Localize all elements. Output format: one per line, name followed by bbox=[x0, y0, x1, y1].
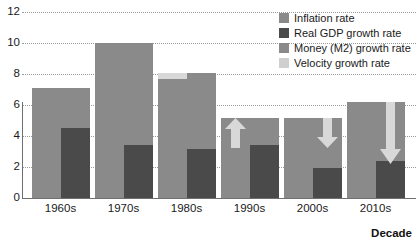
segment-gdp-2010s bbox=[376, 161, 405, 198]
segment-gdp-1970s bbox=[124, 145, 153, 198]
y-tick-label-4: 4 bbox=[0, 130, 20, 142]
segment-gdp-2000s bbox=[313, 168, 342, 198]
legend-item-velocity-growth-rate[interactable]: Velocity growth rate bbox=[279, 56, 411, 70]
bar-inflation-1970s[interactable] bbox=[95, 43, 124, 198]
y-tick-label-2: 2 bbox=[0, 161, 20, 173]
segment-gdp-1980s bbox=[187, 149, 216, 198]
bar-chart: 12 10 8 6 4 2 0 bbox=[0, 0, 418, 247]
y-tick-label-0: 0 bbox=[0, 192, 20, 204]
bar-gdp-1960s[interactable] bbox=[61, 88, 90, 198]
bar-gdp-2000s[interactable] bbox=[313, 118, 342, 198]
legend-swatch-real-gdp-growth-rate bbox=[279, 28, 289, 38]
y-tick-label-8: 8 bbox=[0, 68, 20, 80]
chart-legend: Inflation rate Real GDP growth rate Mone… bbox=[279, 11, 411, 71]
bar-group-1980s bbox=[158, 6, 215, 198]
legend-label-inflation-rate: Inflation rate bbox=[294, 13, 355, 24]
bar-group-1970s bbox=[95, 6, 152, 198]
bar-gdp-1990s[interactable] bbox=[250, 118, 279, 198]
y-tick-label-10: 10 bbox=[0, 37, 20, 49]
bar-money-1990s[interactable] bbox=[221, 118, 250, 198]
x-axis-title: Decade bbox=[371, 228, 412, 240]
legend-item-real-gdp-growth-rate[interactable]: Real GDP growth rate bbox=[279, 26, 411, 40]
legend-item-money-m2-growth-rate[interactable]: Money (M2) growth rate bbox=[279, 41, 411, 55]
x-tick-label-1990s: 1990s bbox=[221, 203, 278, 215]
bar-inflation-1960s[interactable] bbox=[32, 88, 61, 198]
legend-swatch-money-m2-growth-rate bbox=[279, 43, 289, 53]
bar-money-2010s[interactable] bbox=[347, 102, 376, 198]
legend-swatch-velocity-growth-rate bbox=[279, 58, 289, 68]
y-tick-label-12: 12 bbox=[0, 6, 20, 18]
segment-gdp-1990s bbox=[250, 145, 279, 198]
x-tick-label-2000s: 2000s bbox=[284, 203, 341, 215]
x-tick-label-1960s: 1960s bbox=[32, 203, 89, 215]
legend-item-inflation-rate[interactable]: Inflation rate bbox=[279, 11, 411, 25]
bar-inflation-2000s[interactable] bbox=[284, 118, 313, 198]
legend-label-velocity-growth-rate: Velocity growth rate bbox=[294, 58, 390, 69]
x-tick-label-1980s: 1980s bbox=[158, 203, 215, 215]
bar-gdp-1980s[interactable] bbox=[187, 73, 216, 198]
legend-swatch-inflation-rate bbox=[279, 13, 289, 23]
segment-velocity-1980s bbox=[158, 73, 187, 79]
x-tick-label-2010s: 2010s bbox=[347, 203, 404, 215]
segment-gdp-1960s bbox=[61, 128, 90, 198]
bar-group-1960s bbox=[32, 6, 89, 198]
legend-label-real-gdp-growth-rate: Real GDP growth rate bbox=[294, 28, 401, 39]
bar-gdp-1970s[interactable] bbox=[124, 43, 153, 198]
bar-group-1990s bbox=[221, 6, 278, 198]
y-tick-label-6: 6 bbox=[0, 99, 20, 111]
bar-money-1980s[interactable] bbox=[158, 73, 187, 198]
bar-gdp-2010s[interactable] bbox=[376, 102, 405, 198]
x-tick-label-1970s: 1970s bbox=[95, 203, 152, 215]
x-axis-line bbox=[22, 198, 416, 199]
legend-label-money-m2-growth-rate: Money (M2) growth rate bbox=[294, 43, 411, 54]
